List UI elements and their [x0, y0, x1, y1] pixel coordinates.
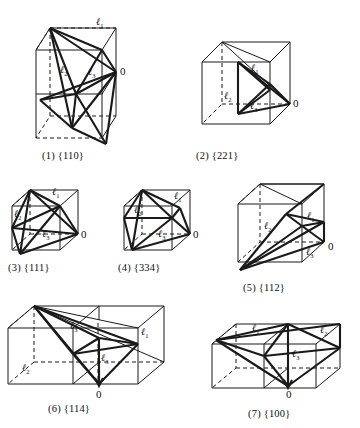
- panel-4-caption: (4) {334}: [118, 262, 161, 273]
- vector-label-l2: ℓ2: [224, 90, 231, 103]
- vector-label-l1: ℓ1: [174, 190, 181, 203]
- origin-arrow: [284, 372, 292, 388]
- diagram-panel-1: ℓ1 ℓ2 ℓ3 0: [28, 4, 148, 164]
- vector-label-l1: ℓ1: [307, 210, 314, 223]
- slip-edge: [172, 208, 180, 218]
- panel-4-cell-drawing: [118, 184, 223, 264]
- cell-edge: [8, 306, 34, 328]
- diagram-panel-2: ℓ1 ℓ2 ℓ3 0: [198, 28, 338, 153]
- vector-label-l3: ℓ3: [88, 66, 95, 79]
- slip-edge: [124, 218, 132, 250]
- diagram-panel-4: ℓ1 ℓ2 ℓ3 0: [118, 184, 223, 266]
- vector-label-l2: ℓ2: [134, 204, 141, 217]
- vector-label-l2: ℓ2: [264, 220, 271, 233]
- panel-5-caption: (5) {112}: [243, 282, 285, 293]
- vector-label-l2: ℓ2: [22, 362, 29, 375]
- origin-label: 0: [286, 388, 292, 400]
- vector-label-l3: ℓ3: [292, 348, 299, 361]
- diagram-panel-7: ℓ1 ℓ2 ℓ3 0: [208, 318, 358, 408]
- panel-6-cell-drawing: [4, 300, 184, 402]
- hidden-edge: [36, 28, 50, 138]
- diagonal-line: [260, 184, 302, 204]
- diagram-panel-5: ℓ1 ℓ2 ℓ3 0: [232, 178, 357, 283]
- cell-edge: [202, 42, 222, 62]
- vector-label-l3: ℓ3: [42, 228, 49, 241]
- panel-2-caption: (2) {221}: [196, 150, 239, 161]
- panel-3-caption: (3) {111}: [8, 262, 50, 273]
- vector-label-l3: ℓ3: [250, 100, 257, 113]
- hidden-edge: [8, 306, 34, 384]
- figure-root: ℓ1 ℓ2 ℓ3 0 (1) {110}: [0, 0, 360, 428]
- vector-label-l1: ℓ1: [252, 322, 259, 335]
- cell-edge: [138, 362, 164, 384]
- cell-edge: [212, 324, 236, 344]
- slip-edge: [102, 50, 116, 72]
- cell-edge: [316, 368, 340, 388]
- vector-label-l2: ℓ2: [320, 324, 327, 337]
- origin-label: 0: [96, 388, 102, 400]
- panel-1-caption: (1) {110}: [42, 150, 84, 161]
- vector-label-l2: ℓ2: [14, 208, 21, 221]
- diagram-panel-3: ℓ1 ℓ2 ℓ3 0: [8, 184, 108, 266]
- vector-label-l3-secondary: ℓ3: [101, 352, 108, 365]
- cell-edge: [102, 28, 116, 50]
- origin-label: 0: [328, 240, 334, 252]
- vector-label-l3: ℓ3: [306, 246, 313, 259]
- vector-label-l1: ℓ1: [141, 326, 148, 339]
- slip-edge: [216, 340, 288, 386]
- origin-label: 0: [81, 228, 87, 240]
- slip-edge: [264, 348, 340, 356]
- slip-edge: [270, 84, 290, 104]
- vector-label-l3: ℓ3: [158, 228, 165, 241]
- diagram-panel-6: ℓ1 ℓ2 ℓ3 ℓ3 0: [4, 300, 184, 405]
- vector-label-l1: ℓ1: [52, 186, 59, 199]
- hidden-edge: [202, 42, 222, 124]
- origin-label: 0: [120, 65, 126, 77]
- panel-7-cell-drawing: [208, 318, 358, 406]
- panel-2-cell-drawing: [198, 28, 338, 148]
- slip-edge: [142, 190, 172, 218]
- cell-edge: [270, 42, 290, 62]
- panel-6-caption: (6) {114}: [48, 403, 90, 414]
- origin-label: 0: [193, 228, 199, 240]
- cell-edge: [238, 184, 260, 204]
- cell-edge: [36, 28, 50, 50]
- panel-7-caption: (7) {100}: [248, 408, 291, 419]
- vector-label-l1: ℓ1: [96, 16, 103, 29]
- slip-edge: [216, 340, 264, 356]
- cell-edge: [60, 190, 78, 206]
- vector-label-l1: ℓ1: [251, 62, 258, 75]
- cell-edge: [138, 306, 164, 328]
- origin-label: 0: [293, 97, 299, 109]
- vector-label-l3: ℓ3: [70, 320, 77, 333]
- slip-edge: [34, 306, 99, 338]
- panel-5-cell-drawing: [232, 178, 357, 280]
- vector-label-l2: ℓ2: [60, 64, 67, 77]
- diagonal-line: [222, 42, 270, 62]
